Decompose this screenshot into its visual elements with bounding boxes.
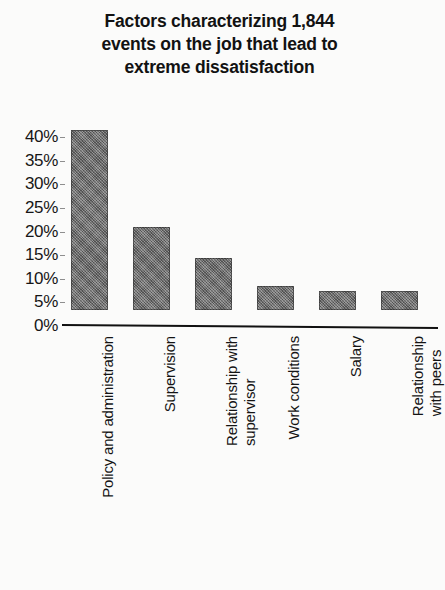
y-tick-mark [60, 302, 65, 303]
bar[interactable] [195, 258, 232, 310]
y-tick-mark [60, 184, 65, 185]
y-tick-mark [60, 255, 65, 256]
x-tick-label: Supervision [161, 336, 179, 412]
x-axis: Policy and administrationSupervisionRela… [0, 336, 439, 590]
bar[interactable] [257, 286, 294, 310]
chart-plot-area: 0%5%10%15%20%25%30%35%40% [0, 100, 439, 340]
x-tick-label: Salary [347, 336, 365, 377]
bar[interactable] [71, 130, 108, 310]
bar-series [0, 100, 439, 326]
bar[interactable] [133, 227, 170, 310]
y-tick-mark [60, 161, 65, 162]
x-tick-label: Relationship with supervisor [223, 336, 259, 446]
y-tick-mark [60, 137, 65, 138]
y-tick-mark [60, 208, 65, 209]
bar[interactable] [381, 291, 418, 310]
x-tick-label: Work conditions [285, 336, 303, 439]
y-tick-mark [60, 279, 65, 280]
x-tick-label: Policy and administration [99, 336, 117, 498]
y-tick-mark [60, 232, 65, 233]
page-title: Factors characterizing 1,844 events on t… [0, 10, 439, 79]
x-tick-label: Relationship with peers [409, 336, 445, 416]
bar[interactable] [319, 291, 356, 310]
